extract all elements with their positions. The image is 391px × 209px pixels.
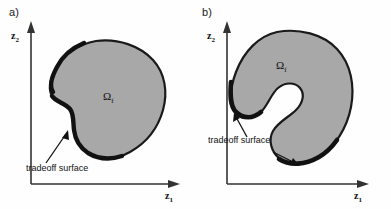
panel-a: a) z2 z1 Ωf tradeoff surface [0, 0, 196, 209]
annotation-arrow-a [46, 130, 69, 163]
x-axis-subscript: 1 [169, 196, 173, 204]
panel-b-graphic [195, 0, 391, 209]
panel-b-x-axis-label: z1 [354, 190, 362, 204]
region-label-a: Ωf [103, 90, 114, 105]
omega-symbol: Ω [103, 90, 111, 102]
figure-container: a) z2 z1 Ωf tradeoff surface [0, 0, 391, 209]
panel-a-graphic [0, 0, 196, 209]
y-axis-subscript: 2 [15, 36, 19, 44]
omega-subscript: f [111, 97, 113, 105]
panel-a-label: a) [9, 6, 19, 18]
omega-subscript: f [284, 66, 286, 74]
panel-b-y-axis-label: z2 [207, 30, 215, 44]
tradeoff-surface-caption-b: tradeoff surface [208, 135, 270, 145]
panel-a-x-axis-label: z1 [165, 190, 173, 204]
panel-a-y-axis-label: z2 [11, 30, 19, 44]
panel-b-label: b) [202, 6, 212, 18]
panel-b: b) z2 z1 Ωf tradeoff surface [195, 0, 391, 209]
y-axis-subscript: 2 [211, 36, 215, 44]
omega-symbol: Ω [276, 59, 284, 71]
region-label-b: Ωf [276, 59, 287, 74]
tradeoff-surface-caption-a: tradeoff surface [26, 163, 88, 173]
x-axis-subscript: 1 [358, 196, 362, 204]
